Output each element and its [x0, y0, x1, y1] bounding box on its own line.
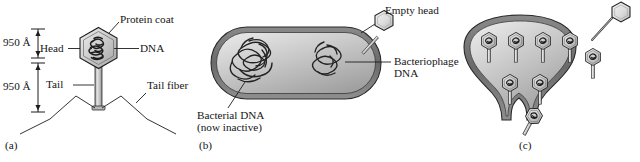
leader-empty-head [361, 24, 375, 33]
empty-head-phage-c [592, 2, 630, 40]
dimension-tail-950A [31, 63, 45, 112]
label-950a-tail: 950 Å [3, 81, 31, 93]
bacterium-cytoplasm [217, 33, 376, 94]
leader-protein-coat [109, 22, 119, 33]
label-bacterial-dna-2: (now inactive) [197, 122, 262, 134]
figure-artwork [0, 0, 640, 162]
label-head: Head [40, 43, 64, 55]
label-950a-head: 950 Å [3, 37, 31, 49]
panel-c-artwork [464, 2, 630, 138]
figure-canvas: 950 Å 950 Å Head Protein coat DNA Tail T… [0, 0, 640, 162]
panel-b-artwork [211, 11, 393, 109]
label-tail: Tail [46, 79, 63, 91]
label-dna: DNA [140, 43, 164, 55]
phage-escaping [518, 105, 545, 138]
panel-caption-b: (b) [199, 139, 212, 151]
leader-tail-fiber [136, 93, 146, 103]
label-protein-coat: Protein coat [120, 14, 174, 26]
phage-inside-5 [586, 48, 601, 78]
label-tail-fiber: Tail fiber [147, 80, 188, 92]
panel-caption-c: (c) [519, 139, 531, 151]
label-bacteriophage-dna-2: DNA [394, 68, 418, 80]
label-empty-head: Empty head [385, 5, 439, 17]
phage-baseplate [92, 106, 105, 110]
panel-a-artwork [20, 22, 176, 134]
panel-caption-a: (a) [5, 139, 17, 151]
